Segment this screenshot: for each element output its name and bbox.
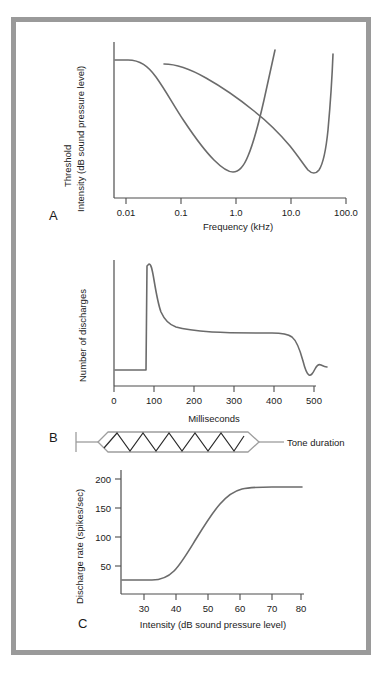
panel-c-ytick-0: 50 xyxy=(100,561,111,572)
panel-b-xtick-3: 300 xyxy=(226,395,242,406)
panel-c-ylabel: Discharge rate (spikes/sec) xyxy=(74,489,85,604)
panel-c-letter: C xyxy=(78,616,87,631)
panel-a: Threshold Intensity (dB sound pressure l… xyxy=(16,22,366,234)
panel-c-ytick-2: 150 xyxy=(95,503,111,514)
panel-b-x-ticks xyxy=(114,386,314,392)
panel-c-ytick-3: 200 xyxy=(95,474,111,485)
panel-b-xlabel: Milliseconds xyxy=(188,413,240,424)
panel-a-ylabel-line1: Threshold xyxy=(62,145,73,187)
marker-waveform xyxy=(104,433,244,451)
panel-a-xtick-3: 10.0 xyxy=(282,207,301,218)
figure-root: Threshold Intensity (dB sound pressure l… xyxy=(0,0,384,680)
panel-b-xtick-4: 400 xyxy=(266,395,282,406)
panel-c-x-ticks xyxy=(144,594,301,600)
panel-b-xtick-2: 200 xyxy=(186,395,202,406)
panel-c-xtick-2: 50 xyxy=(203,603,214,614)
panel-a-xtick-2: 1.0 xyxy=(229,207,242,218)
panel-a-plot: Threshold Intensity (dB sound pressure l… xyxy=(16,22,366,234)
panel-c-y-ticks xyxy=(115,479,121,566)
panel-b-psth-curve xyxy=(115,264,327,375)
panel-c-rate-intensity-curve xyxy=(122,487,302,580)
panel-c-xtick-3: 60 xyxy=(235,603,246,614)
panel-b-xtick-1: 100 xyxy=(146,395,162,406)
panel-b-plot: Number of discharges 0 100 200 300 400 5… xyxy=(16,234,366,456)
panel-b-xtick-0: 0 xyxy=(111,395,116,406)
panel-b-ylabel: Number of discharges xyxy=(77,289,88,382)
panel-a-xtick-4: 100.0 xyxy=(334,207,358,218)
tone-duration-marker: Tone duration xyxy=(16,424,366,460)
panel-a-ylabel-line2: Intensity (dB sound pressure level) xyxy=(75,66,86,212)
panel-c-xtick-4: 70 xyxy=(267,603,278,614)
panel-c-xtick-0: 30 xyxy=(139,603,150,614)
panel-a-xtick-0: 0.01 xyxy=(117,207,136,218)
marker-label: Tone duration xyxy=(287,437,345,448)
panel-c-ytick-1: 100 xyxy=(95,532,111,543)
panel-b-xtick-5: 500 xyxy=(306,395,322,406)
panel-a-x-ticks xyxy=(126,198,346,204)
panel-c: Discharge rate (spikes/sec) 50 100 150 2… xyxy=(16,456,366,650)
panel-a-xlabel: Frequency (kHz) xyxy=(203,221,273,232)
figure-frame: Threshold Intensity (dB sound pressure l… xyxy=(11,17,371,655)
panel-a-letter: A xyxy=(49,208,58,223)
panel-b: Number of discharges 0 100 200 300 400 5… xyxy=(16,234,366,456)
panel-c-xtick-1: 40 xyxy=(171,603,182,614)
panel-c-plot: Discharge rate (spikes/sec) 50 100 150 2… xyxy=(16,456,366,650)
panel-c-xtick-5: 80 xyxy=(296,603,307,614)
panel-a-xtick-1: 0.1 xyxy=(174,207,187,218)
panel-c-xlabel: Intensity (dB sound pressure level) xyxy=(140,619,286,630)
panel-a-curve-low-cf xyxy=(115,50,275,172)
